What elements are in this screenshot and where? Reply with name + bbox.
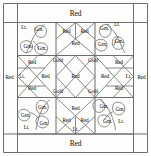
right-unit-light: Lt. bbox=[126, 74, 132, 79]
center-red-left: Red bbox=[41, 74, 49, 79]
bottom-unit-red-right: Red bbox=[80, 118, 88, 123]
bottom-unit-light: Lt. bbox=[73, 127, 79, 132]
left-unit-light: Lt. bbox=[19, 74, 25, 79]
leaf-bottom-right-c: Grn. bbox=[103, 119, 112, 124]
center-red-middle: Red bbox=[71, 74, 79, 79]
leaf-bottom-left-b: Grn. bbox=[21, 113, 30, 118]
leaf-top-left-a: Grn. bbox=[35, 27, 44, 32]
corner-light-top-right: Lt. bbox=[114, 22, 120, 27]
gold-diamond-bottom-left: Gold bbox=[53, 89, 63, 94]
corner-light-bottom-right: Lt. bbox=[118, 119, 124, 124]
leaf-bottom-right-b: Grn. bbox=[116, 107, 125, 112]
gold-diamond-top-left: Gold bbox=[53, 58, 63, 63]
leaf-bottom-left-a: Grn. bbox=[38, 105, 47, 110]
leaf-top-right-b: Grn. bbox=[115, 39, 124, 44]
top-unit-red-left: Red bbox=[62, 29, 70, 34]
corner-light-bottom-left: Lt. bbox=[24, 125, 30, 130]
leaf-bottom-right-a: Grn. bbox=[100, 104, 109, 109]
border-label-top: Red bbox=[70, 10, 82, 17]
applique-bottom-right bbox=[93, 99, 125, 130]
quilt-block-diagram: RedRedRedRedLt.Grn.Grn.Grn.Lt.Grn.Grn.Gr… bbox=[0, 0, 151, 156]
leaf-top-left-c: Grn. bbox=[38, 46, 47, 51]
center-red-right: Red bbox=[101, 74, 109, 79]
border-label-left: Red bbox=[5, 75, 13, 80]
right-unit-red-top: Red bbox=[115, 60, 123, 65]
gold-diamond-top-right: Gold bbox=[88, 58, 98, 63]
leaf-top-right-c: Grn. bbox=[98, 42, 107, 47]
left-unit-red-bottom: Red bbox=[28, 86, 36, 91]
corner-light-top-left: Lt. bbox=[21, 25, 27, 30]
border-label-bottom: Red bbox=[70, 140, 82, 147]
gold-diamond-bottom-right: Gold bbox=[88, 89, 98, 94]
bottom-unit-red-center: Red bbox=[71, 106, 79, 111]
left-unit-red-top: Red bbox=[28, 60, 36, 65]
leaf-top-left-b: Grn. bbox=[24, 44, 33, 49]
leaf-bottom-left-c: Grn. bbox=[40, 121, 49, 126]
bottom-unit-red-left: Red bbox=[62, 118, 70, 123]
border-label-right: Red bbox=[137, 75, 145, 80]
leaf-top-right-a: Grn. bbox=[100, 26, 109, 31]
top-unit-red-center: Red bbox=[71, 41, 79, 46]
top-unit-red-right: Red bbox=[80, 29, 88, 34]
right-unit-red-bottom: Red bbox=[115, 86, 123, 91]
